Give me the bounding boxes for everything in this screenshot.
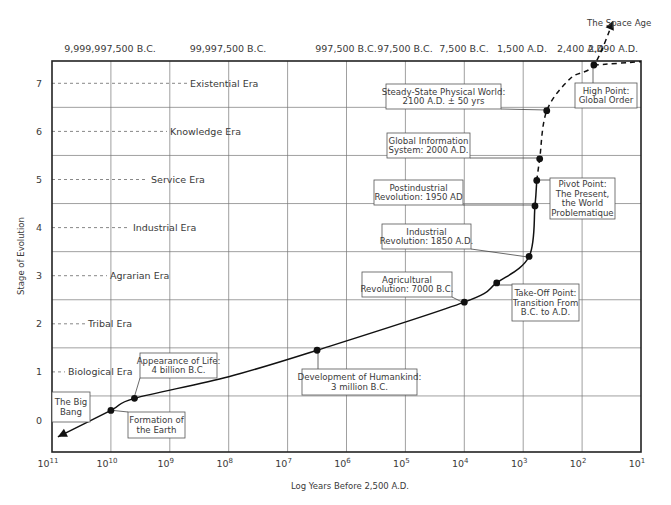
annotation-text: Industrial: [406, 227, 446, 237]
data-point-marker: [532, 203, 539, 210]
data-point-marker: [536, 155, 543, 162]
y-tick-label: 7: [36, 78, 42, 89]
annotation-text: Global Information: [389, 136, 469, 146]
projected-curve: [594, 62, 641, 65]
y-tick-label: 1: [36, 366, 42, 377]
annotation-text: Steady-State Physical World:: [382, 87, 506, 97]
y-tick-label: 4: [36, 222, 42, 233]
top-date-label: 1,500 A.D.: [497, 43, 547, 54]
annotation-text: Formation of: [129, 415, 184, 425]
top-date-label: 2,490 A.D.: [588, 43, 638, 54]
x-tick-label: 101: [629, 457, 646, 469]
data-point-marker: [526, 253, 533, 260]
annotation-text: Development of Humankind:: [298, 372, 422, 382]
x-tick-label: 107: [275, 457, 292, 469]
x-tick-label: 104: [452, 457, 469, 469]
x-tick-label: 109: [158, 457, 175, 469]
era-label: Knowledge Era: [170, 126, 241, 137]
annotation-text: the Earth: [137, 425, 177, 435]
top-date-labels: 9,999,997,500 B.C.99,997,500 B.C.997,500…: [64, 43, 638, 54]
data-point-marker: [131, 395, 138, 402]
top-date-label: 99,997,500 B.C.: [190, 43, 267, 54]
annotation-text: 2100 A.D. ± 50 yrs: [403, 96, 485, 106]
top-date-label: 9,999,997,500 B.C.: [64, 43, 156, 54]
y-tick-label: 0: [36, 415, 42, 426]
top-date-label: 97,500 B.C.: [377, 43, 432, 54]
x-tick-label: 1011: [37, 457, 58, 469]
historical-curve: [58, 180, 537, 436]
x-tick-label: 103: [511, 457, 528, 469]
y-tick-label: 5: [36, 174, 42, 185]
era-label: Agrarian Era: [110, 270, 169, 281]
annotation-text: Revolution: 1850 A.D.: [380, 236, 474, 246]
y-axis-title: Stage of Evolution: [16, 217, 26, 295]
data-point-marker: [493, 280, 500, 287]
x-tick-label: 1010: [96, 457, 117, 469]
annotation-text: 4 billion B.C.: [151, 365, 205, 375]
era-label: Existential Era: [190, 78, 258, 89]
leader-line: [501, 109, 547, 110]
annotation-text: Revolution: 7000 B.C.: [360, 284, 453, 294]
data-point-marker: [543, 107, 550, 114]
annotation-text: System: 2000 A.D.: [388, 145, 468, 155]
era-label: Biological Era: [68, 366, 133, 377]
annotation-text: Bang: [60, 407, 82, 417]
evolution-chart: Biological EraTribal EraAgrarian EraIndu…: [0, 0, 671, 505]
era-label: Industrial Era: [133, 222, 196, 233]
annotation-text: Problematique: [551, 208, 613, 218]
era-labels: Biological EraTribal EraAgrarian EraIndu…: [52, 78, 258, 378]
y-axis-ticks: 01234567: [36, 78, 42, 426]
data-point-marker: [461, 299, 468, 306]
leader-line: [471, 249, 528, 257]
x-tick-label: 108: [216, 457, 233, 469]
annotation-text: Agricultural: [382, 275, 432, 285]
annotation-text: Take-Off Point:: [513, 288, 576, 298]
annotation-text: The Big: [54, 397, 87, 407]
annotation-text: Postindustrial: [389, 183, 447, 193]
y-tick-label: 6: [36, 126, 42, 137]
x-tick-label: 102: [570, 457, 587, 469]
x-axis-ticks: 10111010109108107106105104103102101: [37, 457, 645, 469]
x-tick-label: 106: [334, 457, 351, 469]
annotation-text: High Point:: [583, 86, 630, 96]
annotation-text: Transition From: [512, 298, 579, 308]
top-date-label: 7,500 B.C.: [439, 43, 488, 54]
annotation-text: The Space Age: [586, 18, 651, 28]
era-label: Tribal Era: [87, 318, 132, 329]
annotation-text: the World: [562, 198, 603, 208]
y-tick-label: 2: [36, 318, 42, 329]
data-point-marker: [108, 407, 115, 414]
annotation-text: Revolution: 1950 AD: [374, 192, 463, 202]
era-label: Service Era: [151, 174, 205, 185]
data-point-marker: [314, 347, 321, 354]
y-tick-label: 3: [36, 270, 42, 281]
annotation-text: The Present,: [555, 189, 610, 199]
x-tick-label: 105: [393, 457, 410, 469]
annotation-text: B.C. to A.D.: [521, 307, 570, 317]
annotation-text: Global Order: [579, 95, 634, 105]
x-axis-title: Log Years Before 2,500 A.D.: [291, 481, 409, 491]
annotation-text: Appearance of Life:: [137, 356, 221, 366]
annotation-text: Pivot Point:: [558, 179, 606, 189]
top-date-label: 997,500 B.C.: [315, 43, 377, 54]
annotation-text: 3 million B.C.: [331, 382, 388, 392]
